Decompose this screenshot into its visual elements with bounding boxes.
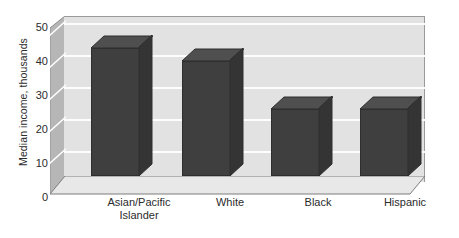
y-tick-40: 40 xyxy=(26,56,48,67)
category-label-asian-pacific-islander: Asian/Pacific Islander xyxy=(84,196,194,222)
y-tick-20: 20 xyxy=(26,124,48,135)
bar-front-face xyxy=(271,109,320,176)
y-tick-10: 10 xyxy=(26,158,48,169)
bar-side-face xyxy=(408,96,422,176)
category-label-line1: White xyxy=(180,196,280,209)
bar-white[interactable] xyxy=(182,61,231,176)
gridline-50 xyxy=(64,23,425,25)
category-label-white: White xyxy=(180,196,280,209)
y-axis-tick-labels: 50 40 30 20 10 0 xyxy=(18,0,48,238)
category-label-hispanic: Hispanic xyxy=(355,196,455,209)
y-tick-30: 30 xyxy=(26,90,48,101)
bar-side-face xyxy=(230,48,244,176)
bar-black[interactable] xyxy=(271,109,320,176)
bar-side-face xyxy=(319,96,333,176)
category-label-black: Black xyxy=(268,196,368,209)
bar-hispanic[interactable] xyxy=(360,109,409,176)
bar-front-face xyxy=(360,109,409,176)
floor-plane xyxy=(50,176,425,198)
category-label-line1: Asian/Pacific xyxy=(84,196,194,209)
category-label-line1: Hispanic xyxy=(355,196,455,209)
left-wall xyxy=(50,16,65,194)
category-label-line2: Islander xyxy=(84,209,194,222)
bar-front-face xyxy=(182,61,231,176)
category-label-line1: Black xyxy=(268,196,368,209)
plot-area xyxy=(50,16,425,194)
bar-front-face xyxy=(91,48,140,176)
bar-side-face xyxy=(139,35,153,176)
y-tick-0: 0 xyxy=(26,192,48,203)
bar-asian-pacific-islander[interactable] xyxy=(91,48,140,176)
y-tick-50: 50 xyxy=(26,22,48,33)
x-axis-category-labels: Asian/Pacific Islander White Black Hispa… xyxy=(50,196,430,236)
bar-chart: Median income, thousands 50 40 30 20 10 … xyxy=(0,0,459,238)
